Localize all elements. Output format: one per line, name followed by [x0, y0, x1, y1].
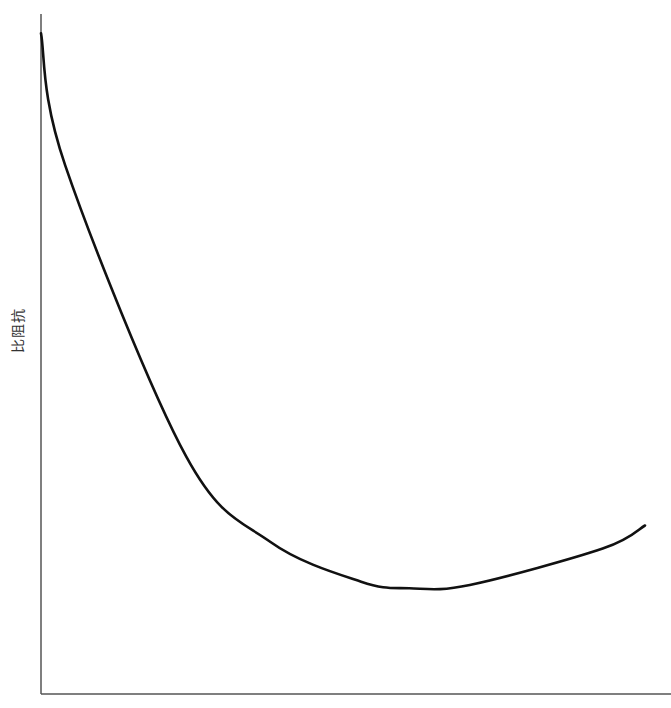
impedance-curve	[41, 33, 645, 589]
y-axis-label: 比阻抗	[7, 308, 27, 353]
chart-canvas	[0, 0, 671, 708]
